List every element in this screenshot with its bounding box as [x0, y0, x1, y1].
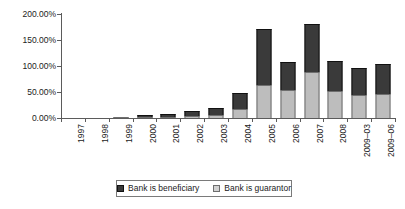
y-axis-tick-mark [57, 14, 61, 15]
x-axis-tick-label: 2004 [244, 124, 253, 143]
x-axis-tick-mark [204, 118, 205, 122]
x-axis-tick-label: 2003 [220, 124, 229, 143]
x-axis-tick-label: 2001 [172, 124, 181, 143]
x-axis-tick-mark [276, 118, 277, 122]
y-axis-tick-mark [57, 92, 61, 93]
x-axis-tick-mark [395, 118, 396, 122]
legend-item-beneficiary: Bank is beneficiary [117, 184, 199, 193]
bar-column [280, 62, 295, 118]
x-axis-tick-mark [133, 118, 134, 122]
bar-segment-beneficiary [328, 61, 343, 91]
bar-segment-guarantor [328, 91, 343, 118]
x-axis-tick-label: 2006 [292, 124, 301, 143]
bar-segment-guarantor [232, 109, 247, 118]
x-axis-tick-label: 1999 [125, 124, 134, 143]
x-axis-tick-label: 2008 [339, 124, 348, 143]
x-axis-tick-mark [252, 118, 253, 122]
bar-segment-guarantor [161, 117, 176, 118]
x-axis-tick-mark [323, 118, 324, 122]
x-axis-tick-mark [228, 118, 229, 122]
bar-segment-guarantor [185, 116, 200, 118]
y-axis-tick-mark [57, 40, 61, 41]
x-axis-tick-mark [61, 118, 62, 122]
bar-segment-guarantor [280, 90, 295, 118]
x-axis-tick-label: 2005 [268, 124, 277, 143]
light-square-icon [213, 185, 220, 192]
x-axis-tick-mark [180, 118, 181, 122]
bar-segment-beneficiary [376, 64, 391, 94]
bar-column [232, 93, 247, 118]
bar-column [137, 115, 152, 118]
bar-segment-beneficiary [209, 108, 224, 115]
y-axis-tick-mark [57, 66, 61, 67]
bar-chart: 0.00%50.00%100.00%150.00%200.00% Bank is… [0, 0, 405, 209]
x-axis-tick-label: 2009–03 [363, 124, 372, 157]
bar-segment-beneficiary [352, 68, 367, 95]
y-axis-tick-label: 100.00% [22, 62, 56, 71]
bar-column [328, 61, 343, 118]
legend-label-beneficiary: Bank is beneficiary [128, 184, 199, 193]
bar-segment-beneficiary [232, 93, 247, 109]
bar-segment-guarantor [256, 85, 271, 118]
x-axis-tick-label: 2000 [149, 124, 158, 143]
dark-square-icon [117, 185, 124, 192]
x-axis-tick-mark [371, 118, 372, 122]
bar-segment-guarantor [137, 117, 152, 118]
bar-segment-guarantor [304, 72, 319, 118]
bar-column [352, 68, 367, 118]
x-axis-tick-mark [85, 118, 86, 122]
x-axis-tick-label: 2007 [316, 124, 325, 143]
bar-segment-beneficiary [304, 24, 319, 72]
y-axis-tick-label: 50.00% [27, 88, 56, 97]
x-axis-tick-label: 2002 [196, 124, 205, 143]
bar-segment-beneficiary [280, 62, 295, 90]
bar-column [113, 117, 128, 118]
chart-legend: Bank is beneficiary Bank is guarantor [116, 180, 292, 197]
x-axis-tick-label: 1997 [77, 124, 86, 143]
legend-item-guarantor: Bank is guarantor [213, 184, 291, 193]
bar-segment-guarantor [376, 94, 391, 118]
y-axis-tick-label: 200.00% [22, 10, 56, 19]
y-axis-tick-label: 0.00% [32, 114, 56, 123]
bar-column [185, 111, 200, 118]
y-axis-tick-label: 150.00% [22, 36, 56, 45]
x-axis-tick-mark [347, 118, 348, 122]
x-axis-tick-mark [109, 118, 110, 122]
bar-segment-guarantor [113, 117, 128, 118]
bar-column [376, 64, 391, 118]
bar-column [161, 114, 176, 118]
bar-segment-beneficiary [256, 29, 271, 86]
bar-column [209, 108, 224, 118]
x-axis-tick-mark [156, 118, 157, 122]
legend-label-guarantor: Bank is guarantor [224, 184, 291, 193]
bar-segment-guarantor [209, 115, 224, 118]
x-axis-tick-label: 2009–06 [387, 124, 396, 157]
bar-segment-guarantor [352, 95, 367, 118]
x-axis-tick-label: 1998 [101, 124, 110, 143]
bar-column [256, 29, 271, 118]
x-axis-tick-mark [300, 118, 301, 122]
plot-area: 0.00%50.00%100.00%150.00%200.00% [61, 14, 395, 118]
bar-column [304, 24, 319, 118]
